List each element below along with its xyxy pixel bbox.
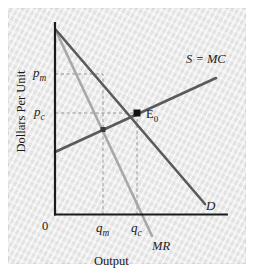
y-tick-pc-sub: c bbox=[41, 112, 45, 122]
guide-lines bbox=[55, 74, 137, 215]
demand-curve-label: D bbox=[206, 199, 215, 212]
origin-label: 0 bbox=[42, 220, 48, 233]
plot-canvas bbox=[0, 0, 257, 280]
x-tick-label-qm: qm bbox=[96, 221, 109, 238]
equilibrium-label-sub: 0 bbox=[154, 114, 159, 124]
y-tick-pm-sub: m bbox=[40, 73, 47, 83]
y-tick-label-pc: pc bbox=[34, 105, 45, 122]
monopoly-mc-point-marker bbox=[101, 127, 106, 132]
equilibrium-point-marker bbox=[134, 110, 141, 117]
x-tick-qm-sub: m bbox=[103, 228, 110, 238]
x-tick-label-qc: qc bbox=[131, 221, 142, 238]
marginal-revenue-curve-label: MR bbox=[152, 240, 170, 253]
figure-container: Dollars Per Unit pm pc 0 qm qc S = MC D … bbox=[0, 0, 257, 280]
y-tick-label-pm: pm bbox=[33, 66, 46, 83]
supply-curve-label: S = MC bbox=[186, 53, 226, 66]
equilibrium-point-label: E0 bbox=[146, 108, 158, 124]
demand-curve bbox=[56, 30, 205, 204]
x-tick-qc-sub: c bbox=[138, 228, 142, 238]
y-axis-title: Dollars Per Unit bbox=[14, 47, 29, 177]
marginal-revenue-curve bbox=[56, 31, 152, 236]
x-axis-title: Output bbox=[94, 255, 129, 268]
equilibrium-label-main: E bbox=[146, 107, 154, 121]
